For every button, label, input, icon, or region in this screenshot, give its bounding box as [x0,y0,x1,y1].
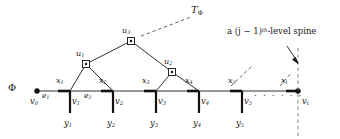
leaf-label-y2-subscript: 2 [112,122,115,128]
node-label-v5-subscript: 5 [249,100,252,106]
annotation-arrow-head [293,58,298,64]
node-label-v4: v4 [201,97,209,107]
node-label-v4-subscript: 4 [206,100,209,106]
segment-label-x1-subscript: 1 [61,79,64,85]
node-label-v0-subscript: 0 [35,100,38,106]
segment-label-x2-subscript: 2 [104,79,107,85]
pendant-edge-group [70,91,242,113]
tree-node-marker-group [83,38,176,76]
leaf-label-y5-subscript: 5 [241,122,244,128]
node-label-v3-subscript: 3 [163,100,166,106]
spine-annotation-prefix: a (j − 1) [227,26,262,36]
diagram-svg [0,0,340,139]
segment-label-xt: xt [281,77,288,85]
tree-label: TΦ [191,5,203,16]
node-label-v1: v1 [72,97,80,107]
leaf-label-y3: y3 [150,119,158,129]
segment-label-x1: x1 [56,77,64,85]
segment-label-x5-subscript: 5 [233,79,236,85]
edge-label-e2-subscript: 2 [88,95,91,100]
node-label-u1: u1 [76,50,84,58]
spine-annotation-suffix: -level spine [268,26,317,36]
node-label-u2-subscript: 2 [169,60,172,66]
leaf-label-y5: y5 [236,119,244,129]
node-label-v1-subscript: 1 [77,100,80,106]
edge-label-e1: e1 [42,92,49,101]
edge-label-e1-subscript: 1 [46,95,49,100]
leaf-label-y3-subscript: 3 [155,122,158,128]
node-v0-dot [34,88,39,93]
leaf-label-y2: y2 [107,119,115,129]
segment-label-x4-subscript: 4 [190,79,193,85]
node-label-u2: u2 [164,58,172,66]
tree-label-letter: T [191,4,198,15]
tree-edge-u1-u3 [86,41,131,64]
tree-label-pointer [141,17,191,36]
node-label-u3-subscript: 3 [127,29,130,35]
segment-label-xt-subscript: t [286,79,288,85]
leaf-label-y1: y1 [64,119,72,129]
segment-label-x2: x2 [99,77,107,85]
segment-label-x3-subscript: 3 [147,79,150,85]
node-label-v2-subscript: 2 [120,100,123,106]
node-label-v3: v3 [158,97,166,107]
leaf-label-y4: y4 [193,119,201,129]
edge-label-e2: e2 [84,92,91,101]
node-label-v5: v5 [244,97,252,107]
spine-annotation: a (j − 1)th-level spine [227,27,316,36]
segment-label-x4: x4 [185,77,193,85]
node-u3-center [130,40,132,42]
node-u2-center [171,71,173,73]
segment-label-x5: x5 [228,77,236,85]
phi-label: Φ [8,83,16,93]
tree-edge-v1-u1 [70,64,86,91]
node-label-vt-subscript: t [307,100,309,106]
ellipsis-label: · · · · · · [254,92,303,101]
node-label-v2: v2 [115,97,123,107]
figure-canvas: Φ TΦ a (j − 1)th-level spine v0 vt v1 v2… [0,0,340,139]
node-u1-center [85,63,87,65]
tree-label-subscript: Φ [198,9,203,16]
segment-label-x3: x3 [142,77,150,85]
node-label-u3: u3 [122,27,130,35]
leaf-label-y4-subscript: 4 [198,122,201,128]
leaf-label-y1-subscript: 1 [69,122,72,128]
annotation-arrow [287,46,298,64]
node-label-u1-subscript: 1 [81,52,84,58]
node-label-v0: v0 [30,97,38,107]
